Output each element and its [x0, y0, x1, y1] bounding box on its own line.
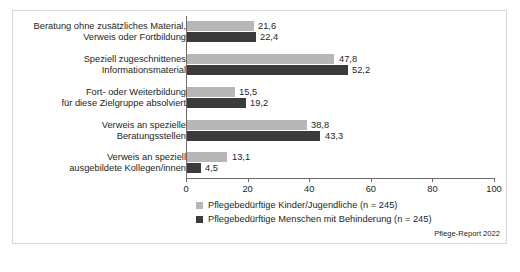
x-axis-tick-label: 20	[242, 184, 252, 195]
bar-series1-cat4	[187, 120, 307, 130]
legend-label-series1: Pflegebedürftige Kinder/Jugendliche (n =…	[208, 200, 397, 211]
bar-value-series1-cat3: 15,5	[239, 87, 257, 97]
bar-value-series2-cat3: 19,2	[250, 98, 268, 108]
x-axis-tick	[432, 178, 433, 182]
x-axis-tick	[186, 178, 187, 182]
plot-area: Beratung ohne zusätzliches Material, Ver…	[0, 0, 520, 272]
x-axis-line	[186, 178, 494, 179]
bar-series2-cat1	[187, 32, 256, 42]
bar-value-series1-cat4: 38,8	[311, 120, 329, 130]
category-label: Fort- oder Weiterbildung für diese Zielg…	[18, 87, 186, 109]
bar-value-series1-cat5: 13,1	[232, 152, 250, 162]
category-label: Verweis an speziell ausgebildete Kollege…	[18, 152, 186, 174]
x-axis-tick-label: 60	[366, 184, 376, 195]
x-axis-tick-label: 80	[427, 184, 437, 195]
x-axis-tick-label: 40	[304, 184, 314, 195]
x-axis-tick	[309, 178, 310, 182]
bar-series1-cat3	[187, 87, 235, 97]
category-label: Speziell zugeschnittenes Informationsmat…	[18, 54, 186, 76]
bar-series1-cat1	[187, 21, 254, 31]
x-axis-tick-label: 0	[183, 184, 188, 195]
bar-series2-cat5	[187, 163, 201, 173]
bar-value-series1-cat2: 47,8	[339, 54, 357, 64]
category-label: Verweis an spezielle Beratungsstellen	[18, 120, 186, 142]
y-axis-line	[186, 16, 187, 178]
bar-value-series2-cat1: 22,4	[260, 32, 278, 42]
legend-swatch-icon	[196, 202, 203, 209]
bar-series1-cat5	[187, 152, 227, 162]
chart-legend: Pflegebedürftige Kinder/Jugendliche (n =…	[196, 199, 432, 227]
source-note: Pflege-Report 2022	[434, 229, 500, 238]
bar-series2-cat4	[187, 131, 320, 141]
legend-label-series2: Pflegebedürftige Menschen mit Behinderun…	[208, 214, 432, 225]
x-axis-tick	[371, 178, 372, 182]
legend-swatch-icon	[196, 216, 203, 223]
legend-item-series1: Pflegebedürftige Kinder/Jugendliche (n =…	[196, 199, 432, 212]
category-label: Beratung ohne zusätzliches Material, Ver…	[18, 21, 186, 43]
bar-value-series2-cat2: 52,2	[352, 65, 370, 75]
bar-value-series1-cat1: 21,6	[258, 21, 276, 31]
x-axis-tick-label: 100	[486, 184, 502, 195]
bar-series2-cat3	[187, 98, 246, 108]
x-axis-tick	[494, 178, 495, 182]
bar-series1-cat2	[187, 54, 334, 64]
bar-series2-cat2	[187, 65, 348, 75]
bar-value-series2-cat4: 43,3	[325, 131, 343, 141]
legend-item-series2: Pflegebedürftige Menschen mit Behinderun…	[196, 213, 432, 226]
chart-figure: Beratung ohne zusätzliches Material, Ver…	[0, 0, 520, 272]
x-axis-tick	[248, 178, 249, 182]
bar-value-series2-cat5: 4,5	[205, 163, 218, 173]
